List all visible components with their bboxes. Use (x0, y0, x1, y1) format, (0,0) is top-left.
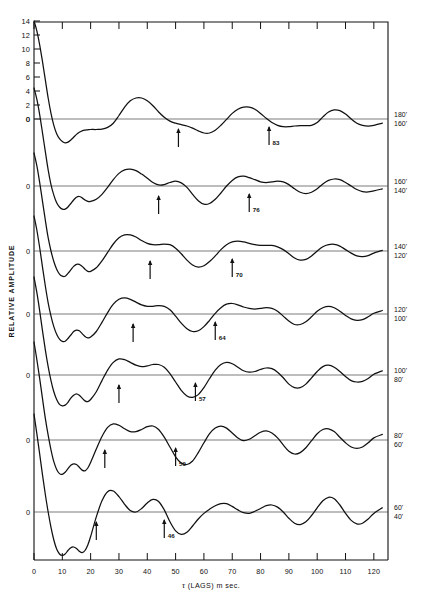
chart-canvas: 010203040506070809010011012002468101214R… (0, 0, 432, 614)
depth-label-bottom: 140' (394, 187, 407, 194)
baseline-zero-label: 0 (26, 436, 30, 445)
x-tick-label: 20 (86, 567, 94, 576)
x-tick-label: 10 (58, 567, 66, 576)
x-tick-label: 0 (32, 567, 36, 576)
peak-marker-arrowhead (176, 128, 180, 133)
x-tick-label: 70 (228, 567, 236, 576)
baseline-zero-label: 0 (26, 182, 30, 191)
period-annotation-label: 64 (219, 334, 226, 341)
x-tick-label: 100 (311, 567, 324, 576)
waveform-trace (34, 88, 382, 209)
baseline-zero-label: 0 (26, 247, 30, 256)
waveform-trace (34, 216, 382, 342)
x-tick-label: 40 (143, 567, 151, 576)
baseline-zero-label: 0 (26, 310, 30, 319)
y-tick-label: 4 (26, 87, 30, 96)
x-tick-label: 120 (368, 567, 381, 576)
peak-marker-arrowhead (103, 449, 107, 454)
peak-marker-arrowhead (148, 260, 152, 265)
period-annotation-label: 57 (199, 395, 206, 402)
peak-marker-arrowhead (117, 384, 121, 389)
x-tick-label: 90 (285, 567, 293, 576)
period-arrowhead (247, 193, 251, 198)
depth-label-top: 160' (394, 178, 407, 185)
period-arrowhead (230, 258, 234, 263)
depth-label-top: 180' (394, 111, 407, 118)
period-annotation-label: 46 (168, 532, 175, 539)
period-annotation-label: 83 (273, 139, 280, 146)
y-tick-label: 10 (21, 45, 30, 54)
autocorrelation-figure: 010203040506070809010011012002468101214R… (0, 0, 432, 614)
waveform-trace (34, 153, 382, 277)
plot-frame (34, 22, 388, 560)
period-arrowhead (193, 382, 197, 387)
depth-label-top: 100' (394, 367, 407, 374)
depth-label-top: 120' (394, 306, 407, 313)
x-tick-label: 110 (339, 567, 351, 576)
depth-label-bottom: 100' (394, 315, 407, 322)
y-tick-label: 6 (26, 73, 30, 82)
depth-label-bottom: 40' (394, 513, 403, 520)
baseline-zero-label: 0 (26, 508, 30, 517)
depth-label-bottom: 60' (394, 441, 403, 448)
depth-label-bottom: 160' (394, 120, 407, 127)
y-axis-title: RELATIVE AMPLITUDE (8, 245, 15, 338)
y-tick-label: 14 (21, 17, 30, 26)
depth-label-top: 80' (394, 432, 403, 439)
period-annotation-label: 76 (253, 206, 260, 213)
x-tick-label: 80 (256, 567, 264, 576)
depth-label-top: 140' (394, 243, 407, 250)
waveform-trace (34, 277, 382, 406)
baseline-zero-label: 0 (26, 115, 30, 124)
y-tick-label: 12 (21, 31, 30, 40)
x-tick-label: 30 (115, 567, 123, 576)
period-arrowhead (162, 519, 166, 524)
period-annotation-label: 70 (236, 271, 243, 278)
peak-marker-arrowhead (131, 323, 135, 328)
depth-label-top: 60' (394, 504, 403, 511)
x-tick-label: 50 (171, 567, 179, 576)
peak-marker-arrowhead (156, 195, 160, 200)
waveform-trace (34, 342, 382, 474)
period-arrowhead (173, 447, 177, 452)
y-tick-label: 2 (26, 101, 30, 110)
waveform-trace (34, 21, 382, 143)
x-axis-title: τ (LAGS) m sec. (182, 581, 240, 590)
depth-label-bottom: 80' (394, 376, 403, 383)
x-tick-label: 60 (200, 567, 208, 576)
period-arrowhead (267, 126, 271, 131)
period-annotation-label: 50 (179, 460, 186, 467)
period-arrowhead (213, 321, 217, 326)
depth-label-bottom: 120' (394, 252, 407, 259)
baseline-zero-label: 0 (26, 371, 30, 380)
y-tick-label: 8 (26, 59, 30, 68)
